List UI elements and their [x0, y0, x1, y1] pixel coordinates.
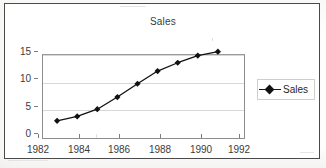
- x-tick-1992: [239, 134, 240, 138]
- scan-artifact: [8, 160, 48, 161]
- x-tick-1984: [79, 134, 80, 138]
- legend-entry-sales[interactable]: Sales: [259, 83, 315, 96]
- x-tick-1988: [160, 134, 161, 138]
- x-axis-label-1986: 1986: [99, 144, 139, 155]
- x-tick-1982: [38, 134, 39, 138]
- chart-frame: Sales 15 10 5 0 1982 1984 1986 1988 1990…: [4, 3, 320, 159]
- plot-area: [42, 54, 245, 139]
- x-axis-label-1984: 1984: [59, 144, 99, 155]
- legend-marker-icon: [259, 84, 281, 95]
- chart-title: Sales: [5, 16, 321, 27]
- x-axis-label-1990: 1990: [181, 144, 221, 155]
- legend-label-sales: Sales: [283, 84, 308, 95]
- x-tick-1990: [201, 134, 202, 138]
- y-tick-15: [34, 51, 38, 52]
- y-axis-label-15: 15: [5, 46, 31, 57]
- y-tick-5: [34, 106, 38, 107]
- y-axis-label-5: 5: [5, 101, 31, 112]
- x-tick-1986: [119, 134, 120, 138]
- x-axis-label-1988: 1988: [140, 144, 180, 155]
- y-axis-label-10: 10: [5, 73, 31, 84]
- x-axis-label-1982: 1982: [18, 144, 58, 155]
- chart-screenshot: Sales 15 10 5 0 1982 1984 1986 1988 1990…: [0, 0, 326, 168]
- x-axis-label-1992: 1992: [219, 144, 259, 155]
- y-axis-label-0: 0: [5, 128, 31, 139]
- gridline-5: [43, 110, 244, 111]
- gridline-15: [43, 55, 244, 56]
- y-tick-10: [34, 78, 38, 79]
- gridline-10: [43, 83, 244, 84]
